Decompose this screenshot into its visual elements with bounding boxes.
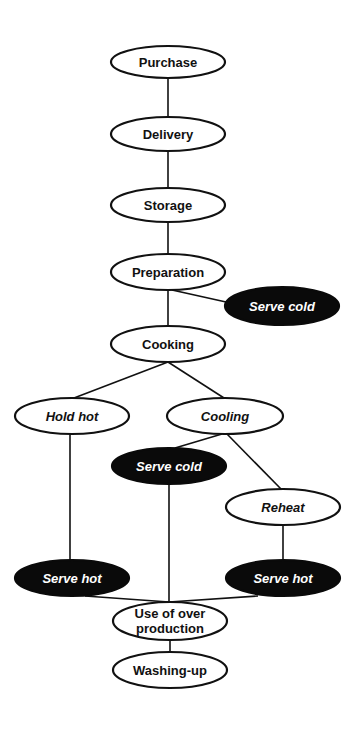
node-label: Serve hot xyxy=(253,571,313,586)
node-serve-hot-right: Serve hot xyxy=(226,560,340,596)
node-label: Serve hot xyxy=(42,571,102,586)
node-serve-cold-after-preparation: Serve cold xyxy=(225,287,339,325)
node-label: Cooking xyxy=(142,337,194,352)
edge-cooling-reheat xyxy=(227,434,282,490)
node-label: Serve cold xyxy=(136,459,203,474)
node-label: Cooling xyxy=(201,409,249,424)
node-delivery: Delivery xyxy=(111,117,225,151)
node-label: Storage xyxy=(144,198,192,213)
node-use-of-over-production: Use of over production xyxy=(113,602,227,640)
node-label: Purchase xyxy=(139,55,198,70)
edge-preparation-serve-cold xyxy=(172,290,226,302)
node-label: Hold hot xyxy=(46,409,99,424)
node-preparation: Preparation xyxy=(111,254,225,290)
node-serve-cold-after-cooling: Serve cold xyxy=(112,448,226,484)
node-serve-hot-left: Serve hot xyxy=(15,560,129,596)
edge-cooling-serve-cold xyxy=(175,434,222,448)
food-flow-diagram: Purchase Delivery Storage Preparation Se… xyxy=(0,0,362,730)
node-label: Preparation xyxy=(132,265,204,280)
edge-serve-hot-left-use xyxy=(85,596,169,602)
node-cooling: Cooling xyxy=(167,398,283,434)
node-cooking: Cooking xyxy=(111,326,225,362)
node-label-line1: Use of over xyxy=(135,606,206,621)
edge-cooking-hold-hot xyxy=(74,362,168,398)
edge-cooking-cooling xyxy=(168,362,224,398)
node-label: Serve cold xyxy=(249,299,316,314)
node-hold-hot: Hold hot xyxy=(15,398,129,434)
node-label: Washing-up xyxy=(133,663,207,678)
node-label: Reheat xyxy=(261,500,305,515)
node-purchase: Purchase xyxy=(111,46,225,78)
node-label: Delivery xyxy=(143,127,194,142)
node-washing-up: Washing-up xyxy=(113,652,227,688)
node-label-line2: production xyxy=(136,621,204,636)
node-storage: Storage xyxy=(111,188,225,222)
edge-serve-hot-right-use xyxy=(169,596,258,602)
node-reheat: Reheat xyxy=(226,489,340,525)
